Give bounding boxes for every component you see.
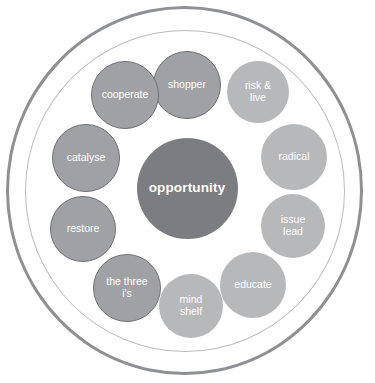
node-circle-cooperate: cooperate <box>91 61 159 129</box>
node-circle-shopper: shopper <box>153 51 221 119</box>
node-label-restore: restore <box>65 223 102 235</box>
node-circle-educate: educate <box>220 252 286 318</box>
node-label-educate: educate <box>232 279 273 291</box>
node-label-shopper: shopper <box>166 79 208 91</box>
node-label-catalyse: catalyse <box>65 152 108 164</box>
node-circle-issue-lead: issue lead <box>261 194 325 258</box>
node-circle-risk-live: risk & live <box>227 61 289 123</box>
node-circle-restore: restore <box>50 196 116 262</box>
node-label-risk-live: risk & live <box>243 80 273 104</box>
node-label-issue-lead: issue lead <box>279 214 308 238</box>
node-circle-mind-shelf: mind shelf <box>159 274 223 338</box>
hub-label: opportunity <box>147 180 228 195</box>
node-label-cooperate: cooperate <box>100 89 151 101</box>
node-circle-catalyse: catalyse <box>52 124 120 192</box>
node-circle-radical: radical <box>261 124 327 190</box>
node-label-radical: radical <box>277 151 312 163</box>
node-label-the-three-is: the three i's <box>104 276 149 300</box>
node-circle-the-three-is: the three i's <box>93 254 161 322</box>
opportunity-wheel-diagram: opportunity shopper risk & live radical … <box>0 0 375 383</box>
hub-circle-opportunity: opportunity <box>137 138 238 239</box>
node-label-mind-shelf: mind shelf <box>178 294 205 318</box>
